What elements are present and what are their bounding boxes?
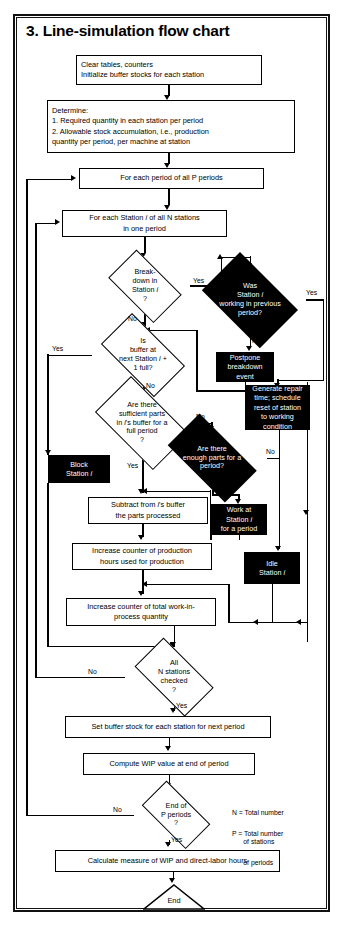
edge-endp-no [26, 815, 134, 817]
arrowhead [246, 346, 252, 351]
node-generate-repair-label: Generate repair time; schedule reset of … [252, 384, 302, 431]
label-was-working-no: No [252, 337, 261, 344]
node-clear-tables-label: Clear tables, counters Initialize buffer… [81, 60, 204, 80]
node-loop-stations: For each Station i of all N stations in … [62, 210, 227, 237]
edge-repair-out [279, 430, 281, 458]
label-sufficient-no: No [196, 413, 205, 420]
edge-block-out [47, 483, 49, 647]
node-postpone-breakdown-label: Postpone breakdown event [227, 353, 262, 381]
arrowhead [165, 746, 171, 751]
node-end-periods-decision: End of P periods ? [132, 790, 220, 840]
edge-buffer-yes-v [47, 354, 49, 455]
label-was-working-yes: Yes [306, 289, 317, 296]
edge-idle-join [146, 584, 229, 586]
diamond-shape [202, 252, 298, 348]
node-postpone-breakdown: Postpone breakdown event [216, 352, 274, 382]
arrowhead [275, 546, 281, 551]
label-enough-yes: Yes [214, 485, 225, 492]
node-subtract-buffer-label: Subtract from i's buffer the parts proce… [111, 500, 185, 520]
arrowhead [217, 254, 223, 259]
label-breakdown-no: No [128, 315, 137, 322]
node-increase-wip: Increase counter of total work-in- proce… [66, 598, 216, 626]
arrowhead [142, 581, 147, 587]
edge-was-working-yes [306, 299, 324, 301]
node-compute-wip: Compute WIP value at end of period [83, 753, 255, 775]
arrowhead [296, 619, 301, 625]
flowchart-page: 3. Line-simulation flow chart Clear tabl… [0, 0, 342, 935]
node-increase-hours: Increase counter of production hours use… [72, 543, 212, 570]
node-buffer-full-decision: Is buffer at next Station i + 1 full? [90, 324, 196, 386]
node-work-station: Work at Station i for a period [211, 504, 267, 535]
node-set-buffer-stock-label: Set buffer stock for each station for ne… [91, 722, 244, 732]
diamond-shape [109, 250, 182, 323]
edge-enough-no-v [279, 457, 281, 549]
edge-endp-no-v [26, 179, 28, 815]
arrowhead [138, 535, 144, 540]
diamond-shape [168, 414, 257, 503]
node-block-station-label: Block Station i [66, 460, 92, 479]
label-breakdown-yes: Yes [193, 277, 204, 284]
node-was-working-decision: Was Station i working in previous period… [192, 262, 308, 338]
edge-work-join [146, 491, 211, 493]
figure-title: 3. Line-simulation flow chart [26, 22, 229, 40]
label-buffer-no: No [146, 382, 155, 389]
arrowhead [169, 878, 175, 883]
node-loop-periods-label: For each period of all P periods [120, 173, 223, 183]
edge-postpone-back-v [196, 330, 198, 391]
node-increase-wip-label: Increase counter of total work-in- proce… [87, 602, 195, 622]
diamond-shape [135, 638, 214, 717]
node-calculate-measure-label: Calculate measure of WIP and direct-labo… [88, 856, 248, 866]
arrowhead [142, 488, 147, 494]
node-block-station: Block Station i [48, 455, 110, 483]
node-loop-periods: For each period of all P periods [79, 168, 264, 189]
node-set-buffer-stock: Set buffer stock for each station for ne… [65, 716, 271, 738]
arrowhead [303, 510, 309, 515]
node-idle-station: Idle Station i [244, 552, 300, 584]
edge-periods-to-stations [168, 189, 170, 205]
edge-checked-no [35, 677, 125, 679]
edge-buffer-yes [47, 355, 92, 357]
edge-was-working-yes-h2 [278, 380, 324, 382]
node-idle-station-label: Idle Station i [259, 559, 285, 578]
node-compute-wip-label: Compute WIP value at end of period [109, 759, 228, 769]
node-clear-tables: Clear tables, counters Initialize buffer… [76, 55, 262, 85]
edge-postpone-back-h [196, 390, 246, 392]
label-checked-yes: Yes [176, 702, 187, 709]
edge-checked-no-v [35, 223, 37, 677]
node-breakdown-decision: Break- down in Station i ? [100, 258, 190, 314]
edge-idle-out [272, 584, 274, 622]
edge-endp-no-to-periods [26, 179, 72, 181]
node-end-label: End [167, 896, 180, 905]
edge-work-out [239, 535, 241, 540]
node-increase-hours-label: Increase counter of production hours use… [92, 546, 192, 566]
edge-idle-back-v [228, 584, 230, 622]
legend-p: P = Total number of periods [232, 809, 283, 888]
label-buffer-yes: Yes [52, 345, 63, 352]
edge-stations-to-breakdown [144, 237, 146, 253]
legend-p-line2: of periods [232, 858, 283, 868]
label-endp-yes: Yes [171, 836, 182, 843]
edge-wip-to-checked [174, 626, 176, 642]
node-subtract-buffer: Subtract from i's buffer the parts proce… [88, 497, 208, 524]
label-endp-no: No [113, 806, 122, 813]
arrowhead [138, 591, 144, 596]
node-determine: Determine: 1. Required quantity in each … [47, 100, 295, 153]
node-work-station-label: Work at Station i for a period [221, 505, 257, 533]
label-enough-no: No [266, 448, 275, 455]
node-end-terminator: End [143, 884, 205, 910]
label-checked-no: No [88, 668, 97, 675]
edge-checked-no-to-stations [35, 223, 57, 225]
label-sufficient-yes: Yes [127, 462, 138, 469]
arrowhead [71, 175, 76, 181]
node-loop-stations-label: For each Station i of all N stations in … [89, 213, 200, 233]
legend-p-line1: P = Total number [232, 829, 283, 839]
arrowhead [253, 619, 258, 625]
diamond-shape [101, 313, 185, 397]
node-determine-label: Determine: 1. Required quantity in each … [52, 106, 209, 147]
node-all-checked-decision: All N stations checked ? [124, 648, 224, 706]
arrowhead [55, 219, 60, 225]
node-generate-repair: Generate repair time; schedule reset of … [245, 385, 310, 430]
edge-was-working-yes-v [323, 299, 325, 381]
node-enough-parts-decision: Are there enough parts for a period? [155, 426, 269, 490]
